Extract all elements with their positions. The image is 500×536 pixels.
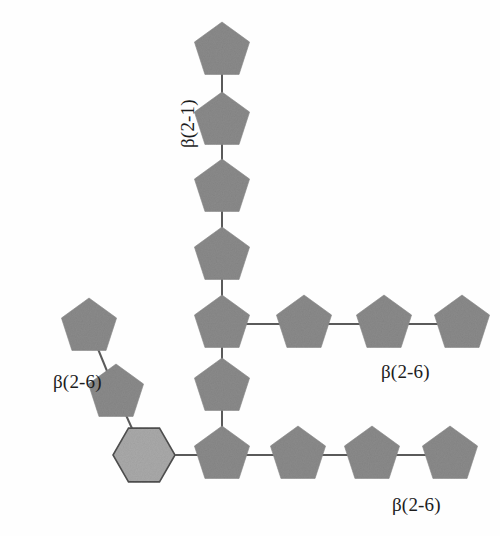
hexose-residue [113, 428, 175, 482]
furanose-residue [61, 298, 116, 350]
furanose-residue [194, 426, 249, 478]
furanose-residue [194, 358, 249, 410]
residue-layer [61, 22, 489, 482]
furanose-residue [344, 426, 399, 478]
glycan-structure-svg [0, 0, 500, 536]
furanose-residue [194, 22, 249, 74]
linkage-label-beta-2-6-upper-branch: β(2-6) [381, 362, 430, 381]
furanose-residue [422, 426, 477, 478]
bond-layer [89, 51, 462, 455]
glycan-diagram-canvas: β(2-1) β(2-6) β(2-6) β(2-6) [0, 0, 500, 536]
furanose-residue [194, 295, 249, 347]
linkage-label-beta-2-6-diagonal-branch: β(2-6) [53, 372, 102, 391]
linkage-label-beta-2-6-lower-branch: β(2-6) [392, 495, 441, 514]
linkage-label-beta-2-1: β(2-1) [178, 99, 197, 148]
furanose-residue [194, 227, 249, 279]
furanose-residue [276, 295, 331, 347]
furanose-residue [270, 426, 325, 478]
furanose-residue [194, 92, 249, 144]
furanose-residue [434, 295, 489, 347]
furanose-residue [194, 159, 249, 211]
furanose-residue [356, 295, 411, 347]
